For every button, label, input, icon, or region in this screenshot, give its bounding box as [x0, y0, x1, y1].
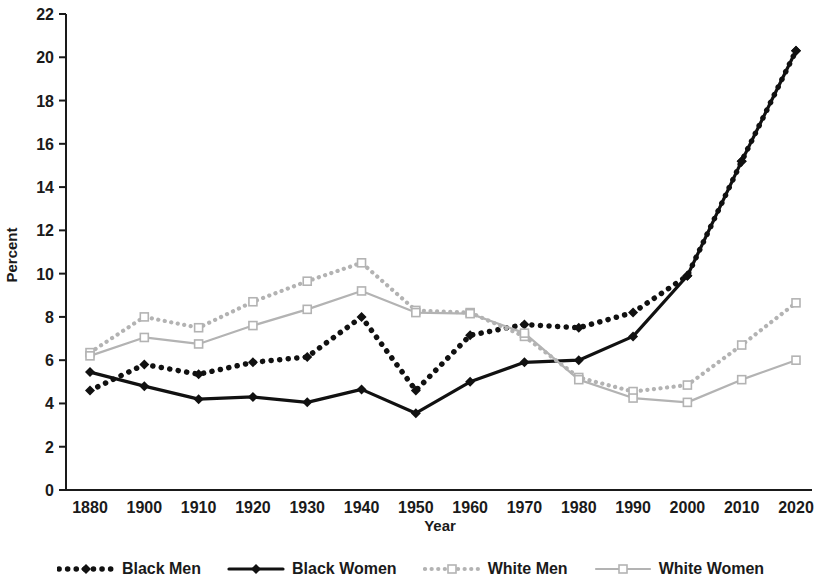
data-point: [86, 352, 94, 360]
legend-item-black-men[interactable]: Black Men: [57, 560, 201, 578]
legend-label: White Women: [659, 560, 764, 578]
legend-label: Black Women: [292, 560, 397, 578]
x-tick-label: 2020: [778, 499, 814, 516]
data-point: [248, 392, 258, 402]
x-tick-label: 1880: [72, 499, 108, 516]
y-tick-label: 18: [36, 93, 54, 110]
x-tick-label: 1990: [615, 499, 651, 516]
x-tick-label: 2000: [670, 499, 706, 516]
data-point: [792, 299, 800, 307]
data-point: [683, 381, 691, 389]
data-point: [574, 355, 584, 365]
data-point: [85, 385, 95, 395]
data-point: [466, 310, 474, 318]
data-point: [303, 277, 311, 285]
data-point: [140, 333, 148, 341]
data-point: [358, 259, 366, 267]
y-tick-label: 20: [36, 49, 54, 66]
data-point: [194, 394, 204, 404]
legend-swatch: [423, 561, 481, 577]
data-point: [85, 367, 95, 377]
data-point: [357, 312, 367, 322]
data-point: [195, 324, 203, 332]
data-point: [738, 376, 746, 384]
chart-legend: Black MenBlack WomenWhite MenWhite Women: [0, 560, 821, 578]
x-tick-label: 2010: [724, 499, 760, 516]
series-layer: [85, 46, 801, 418]
data-point: [628, 308, 638, 318]
legend-marker: [619, 565, 627, 573]
x-tick-label: 1980: [561, 499, 597, 516]
data-point: [248, 357, 258, 367]
x-tick-label: 1930: [289, 499, 325, 516]
legend-item-black-women[interactable]: Black Women: [227, 560, 397, 578]
legend-label: Black Men: [122, 560, 201, 578]
legend-item-white-men[interactable]: White Men: [423, 560, 568, 578]
legend-marker: [251, 564, 261, 574]
x-tick-label: 1970: [507, 499, 543, 516]
x-tick-label: 1940: [344, 499, 380, 516]
data-point: [629, 394, 637, 402]
data-point: [302, 397, 312, 407]
data-point: [140, 313, 148, 321]
y-tick-label: 16: [36, 136, 54, 153]
series-white-women: [86, 287, 800, 406]
x-tick-label: 1910: [181, 499, 217, 516]
y-tick-label: 12: [36, 222, 54, 239]
data-point: [194, 369, 204, 379]
legend-item-white-women[interactable]: White Women: [594, 560, 764, 578]
line-chart: 0246810121416182022188019001910192019301…: [0, 0, 821, 586]
legend-swatch: [594, 561, 652, 577]
x-tick-label: 1950: [398, 499, 434, 516]
data-point: [683, 398, 691, 406]
y-tick-label: 0: [45, 482, 54, 499]
data-point: [519, 357, 529, 367]
y-tick-label: 22: [36, 6, 54, 23]
data-point: [357, 384, 367, 394]
y-tick-label: 4: [45, 395, 54, 412]
legend-marker: [448, 565, 456, 573]
legend-marker: [81, 564, 91, 574]
data-point: [249, 298, 257, 306]
data-point: [358, 287, 366, 295]
data-point: [520, 329, 528, 337]
legend-swatch: [57, 561, 115, 577]
data-point: [412, 309, 420, 317]
y-tick-label: 2: [45, 439, 54, 456]
y-tick-label: 8: [45, 309, 54, 326]
y-tick-label: 14: [36, 179, 54, 196]
data-point: [575, 376, 583, 384]
data-point: [303, 305, 311, 313]
chart-canvas: 0246810121416182022188019001910192019301…: [0, 0, 821, 586]
data-point: [139, 381, 149, 391]
data-point: [519, 319, 529, 329]
x-tick-label: 1900: [127, 499, 163, 516]
y-tick-label: 6: [45, 352, 54, 369]
data-point: [195, 340, 203, 348]
y-tick-label: 10: [36, 266, 54, 283]
data-point: [249, 322, 257, 330]
axes: 0246810121416182022188019001910192019301…: [36, 6, 814, 516]
x-tick-label: 1960: [452, 499, 488, 516]
data-point: [792, 356, 800, 364]
series-line: [90, 51, 796, 413]
y-axis-label: Percent: [3, 227, 20, 282]
x-tick-label: 1920: [235, 499, 271, 516]
legend-swatch: [227, 561, 285, 577]
legend-label: White Men: [488, 560, 568, 578]
data-point: [738, 341, 746, 349]
data-point: [139, 360, 149, 370]
x-axis-label: Year: [424, 517, 456, 534]
